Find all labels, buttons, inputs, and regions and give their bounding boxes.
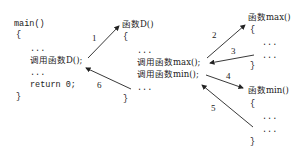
funcD-header: 函数D() bbox=[122, 19, 153, 29]
funcMax-header: 函数max() bbox=[248, 12, 291, 22]
arrow-label-6: 6 bbox=[97, 80, 102, 90]
funcD-line-2: 调用函数min(); bbox=[137, 69, 199, 79]
funcMax-line-0: ... bbox=[262, 38, 277, 48]
funcD-line-3: ... bbox=[137, 83, 152, 93]
main-line-1: 调用函数D(); bbox=[30, 55, 82, 65]
arrow-label-1: 1 bbox=[92, 33, 97, 43]
funcMin-header: 函数min() bbox=[248, 85, 289, 95]
funcMax-close-brace: } bbox=[250, 61, 255, 71]
funcMin-close-brace: } bbox=[250, 137, 255, 147]
main-line-0: ... bbox=[30, 44, 45, 54]
funcD-line-1: 调用函数max(); bbox=[137, 57, 200, 67]
main-line-3: return 0; bbox=[30, 80, 76, 90]
funcMin-line-0: ... bbox=[262, 112, 277, 122]
arrow-label-3: 3 bbox=[231, 46, 236, 56]
funcMin-line-1: ... bbox=[262, 125, 277, 135]
arrow-label-2: 2 bbox=[212, 30, 217, 40]
arrow-label-5: 5 bbox=[211, 103, 216, 113]
main-close-brace: } bbox=[16, 92, 21, 102]
main-line-2: ... bbox=[30, 68, 45, 78]
funcMin-open-brace: { bbox=[250, 99, 255, 109]
arrow-3 bbox=[210, 55, 254, 63]
arrow-5 bbox=[202, 85, 253, 127]
funcD-close-brace: } bbox=[123, 94, 128, 104]
funcD-line-0: ... bbox=[137, 46, 152, 56]
main-header: main() bbox=[14, 19, 45, 29]
funcMax-open-brace: { bbox=[250, 25, 255, 35]
arrow-label-4: 4 bbox=[226, 71, 231, 81]
arrow-6 bbox=[86, 68, 131, 89]
funcD-open-brace: { bbox=[123, 32, 128, 42]
arrow-4 bbox=[206, 75, 243, 88]
funcMax-line-1: ... bbox=[262, 51, 277, 61]
main-open-brace: { bbox=[16, 30, 21, 40]
